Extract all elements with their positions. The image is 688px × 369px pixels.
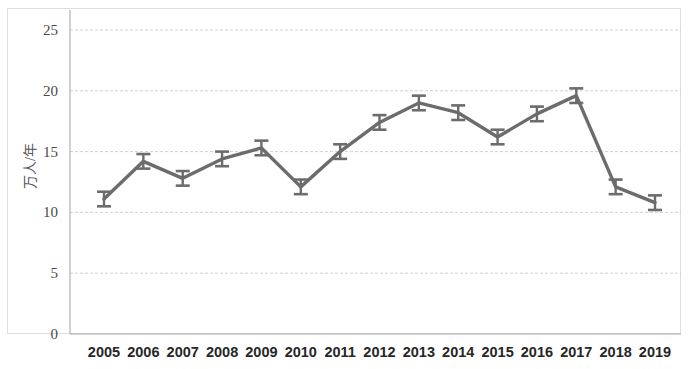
x-tick-label-2009: 2009	[245, 344, 277, 360]
gridlines-group	[70, 30, 681, 334]
y-tick-label: 25	[43, 22, 58, 38]
y-tick-label: 10	[43, 204, 58, 220]
y-tick-labels-group: 0510152025	[43, 22, 58, 342]
x-tick-label-2005: 2005	[88, 344, 120, 360]
x-tick-label-2013: 2013	[403, 344, 435, 360]
chart-figure: 0510152025 20052006200720082009201020112…	[0, 0, 688, 369]
x-tick-label-2011: 2011	[324, 344, 355, 360]
x-tick-label-2014: 2014	[442, 344, 474, 360]
x-tick-label-2018: 2018	[600, 344, 632, 360]
y-axis-title-group: 万人/年	[23, 143, 38, 189]
y-tick-label: 20	[43, 83, 58, 99]
x-tick-label-2015: 2015	[481, 344, 513, 360]
x-tick-label-2006: 2006	[127, 344, 159, 360]
x-tick-label-2019: 2019	[639, 344, 671, 360]
y-axis-title: 万人/年	[23, 143, 38, 189]
y-tick-label: 0	[51, 326, 59, 342]
line-chart-plot: 0510152025 20052006200720082009201020112…	[0, 0, 688, 369]
x-tick-label-2012: 2012	[363, 344, 395, 360]
y-tick-label: 15	[43, 144, 58, 160]
x-tick-label-2007: 2007	[167, 344, 199, 360]
x-tick-label-2017: 2017	[560, 344, 592, 360]
x-tick-label-2008: 2008	[206, 344, 238, 360]
x-tick-label-2010: 2010	[285, 344, 317, 360]
error-bars-group	[97, 88, 662, 210]
x-tick-label-2016: 2016	[521, 344, 553, 360]
x-tick-labels-group: 2005200620072008200920102011201220132014…	[88, 344, 671, 360]
y-tick-label: 5	[51, 265, 59, 281]
